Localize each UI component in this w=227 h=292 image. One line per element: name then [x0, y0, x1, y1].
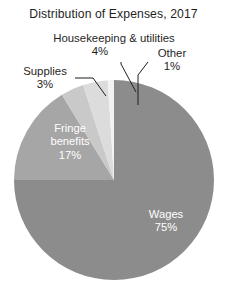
- callout-supplies: Supplies 3%: [14, 65, 76, 91]
- callout-other-value: 1%: [141, 60, 203, 73]
- callout-other-label: Other: [158, 47, 187, 59]
- slice-label-fringe-value: 17%: [59, 149, 81, 161]
- slice-label-wages-value: 75%: [155, 221, 177, 233]
- slice-label-fringe-line1: Fringe: [54, 122, 86, 134]
- slice-label-fringe-line2: benefits: [50, 135, 89, 147]
- slice-label-wages: Wages 75%: [130, 208, 202, 235]
- callout-housekeeping-label: Housekeeping & utilities: [53, 32, 175, 44]
- callout-supplies-label: Supplies: [23, 65, 67, 77]
- pie-chart: Distribution of Expenses, 2017 Supplies …: [0, 0, 227, 292]
- callout-supplies-value: 3%: [14, 78, 76, 91]
- callout-other: Other 1%: [141, 47, 203, 73]
- slice-label-fringe-benefits: Fringe benefits 17%: [28, 122, 112, 162]
- slice-label-wages-name: Wages: [149, 208, 183, 220]
